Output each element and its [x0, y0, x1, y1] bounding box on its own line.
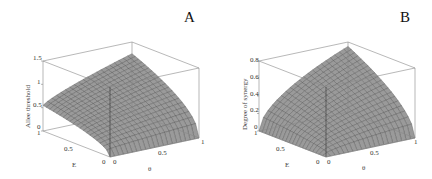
e-tick-b-0: 0 [316, 158, 320, 166]
z-tick-b-0.6: 0.6 [250, 73, 259, 81]
surface-degree-of-synergy [259, 46, 415, 157]
e-axis-label-a: E [72, 161, 76, 169]
e-tick-a-0.5: 0.5 [64, 145, 73, 153]
theta-axis-label-b: θ [362, 164, 366, 172]
panel-label-a: A [184, 9, 195, 25]
z-tick-b-0.4: 0.4 [250, 90, 259, 98]
z-tick-a-1.5: 1.5 [33, 54, 42, 62]
e-tick-b-1: 1 [254, 129, 258, 137]
t-tick-a-0.5: 0.5 [158, 149, 167, 157]
e-tick-a-0: 0 [102, 158, 106, 166]
theta-axis-label-a: θ [148, 165, 152, 173]
panel-b: B Degree of synergy 0.8 0.6 0.4 0.2 0 1 … [241, 9, 418, 172]
e-tick-b-0.5: 0.5 [276, 145, 285, 153]
t-tick-b-1: 1 [414, 138, 418, 146]
e-tick-a-1: 1 [37, 129, 41, 137]
t-tick-a-1: 1 [201, 138, 205, 146]
z-tick-a-1: 1 [37, 78, 41, 86]
z-axis-label-b: Degree of synergy [241, 78, 249, 130]
panel-a: A Allee threshold 1.5 1 0.5 0 1 0.5 0 0 … [24, 9, 205, 173]
t-tick-a-0: 0 [113, 158, 117, 166]
z-tick-b-0.8: 0.8 [250, 56, 259, 64]
surface-allee-threshold [43, 54, 199, 157]
panel-label-b: B [400, 9, 410, 25]
z-axis-label-a: Allee threshold [24, 85, 32, 128]
z-tick-a-0.5: 0.5 [33, 101, 42, 109]
t-tick-b-0: 0 [327, 158, 331, 166]
t-tick-b-0.5: 0.5 [370, 149, 379, 157]
figure: A Allee threshold 1.5 1 0.5 0 1 0.5 0 0 … [0, 0, 432, 179]
z-tick-b-0.2: 0.2 [250, 106, 259, 114]
e-axis-label-b: E [285, 161, 289, 169]
